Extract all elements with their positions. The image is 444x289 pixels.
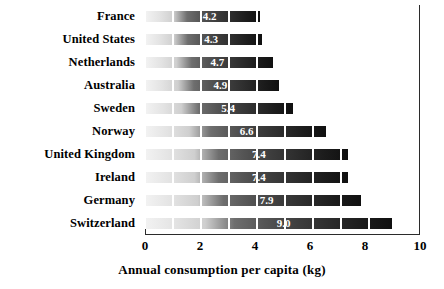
x-tick-label: 0 [142,238,149,254]
bar [145,79,280,92]
x-axis-tick-labels: 0 2 4 6 8 10 [145,238,420,256]
category-label: Switzerland [0,212,140,235]
x-tick-label: 8 [362,238,369,254]
bar-chart: France United States Netherlands Austral… [0,0,444,289]
category-label: France [0,5,140,28]
bar [145,171,349,184]
category-label: Netherlands [0,51,140,74]
category-label: Norway [0,120,140,143]
x-axis-title: Annual consumption per capita (kg) [0,262,444,278]
x-tick-label: 2 [197,238,204,254]
plot-area: 4.2 4.3 4.7 4.9 5.4 6.6 7.4 7.4 [145,5,420,235]
category-label: United States [0,28,140,51]
x-tick-label: 6 [307,238,314,254]
bar [145,102,294,115]
category-label: United Kingdom [0,143,140,166]
bar [145,33,263,46]
bar [145,194,362,207]
x-axis-line [145,234,420,235]
bar [145,217,393,230]
category-label: Ireland [0,166,140,189]
plot-right-frame-line [419,5,420,235]
category-label: Sweden [0,97,140,120]
bar [145,56,274,69]
x-tick-label: 4 [252,238,259,254]
bar [145,10,261,23]
bar [145,148,349,161]
x-axis-tick-start [145,229,146,235]
category-label: Germany [0,189,140,212]
category-label: Australia [0,74,140,97]
bar [145,125,327,138]
category-axis-labels: France United States Netherlands Austral… [0,5,140,235]
x-tick-label: 10 [414,238,427,254]
